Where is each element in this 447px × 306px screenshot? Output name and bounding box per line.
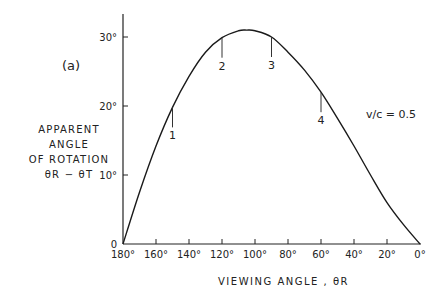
y-tick-label: 0 — [111, 239, 117, 250]
y-axis-label-line: θR − θT — [14, 167, 124, 182]
x-axis-label: VIEWING ANGLE , θR — [0, 276, 447, 287]
marker-label: 3 — [268, 59, 275, 72]
y-axis-label-line: APPARENT — [14, 122, 124, 137]
point-markers: 1234 — [169, 37, 325, 142]
y-axis-label: APPARENT ANGLE OF ROTATION θR − θT — [14, 122, 124, 182]
y-axis-label-line: OF ROTATION — [14, 152, 124, 167]
x-tick-label: 20° — [378, 249, 396, 260]
x-tick-label: 160° — [144, 249, 168, 260]
x-tick-label: 180° — [111, 249, 135, 260]
x-tick-labels: 180°160°140°120°100°80°60°40°20°0° — [111, 249, 426, 260]
y-tick-label: 30° — [99, 32, 117, 43]
y-tick-label: 20° — [99, 101, 117, 112]
x-tick-label: 40° — [345, 249, 363, 260]
y-axis-label-line: ANGLE — [14, 137, 124, 152]
marker-label: 1 — [169, 129, 176, 142]
x-tick-label: 80° — [279, 249, 297, 260]
x-tick-label: 120° — [210, 249, 234, 260]
x-tick-label: 100° — [243, 249, 267, 260]
marker-label: 4 — [318, 114, 325, 127]
x-ticks — [156, 239, 387, 244]
x-tick-label: 0° — [414, 249, 425, 260]
x-tick-label: 60° — [312, 249, 330, 260]
marker-label: 2 — [219, 60, 226, 73]
parameter-label: v/c = 0.5 — [366, 108, 416, 121]
x-tick-label: 140° — [177, 249, 201, 260]
panel-label: (a) — [62, 58, 80, 73]
